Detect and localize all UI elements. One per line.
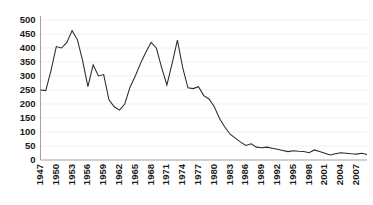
y-tick-labels-group: 050100150200250300350400450500 [20, 14, 36, 165]
x-tick-label: 1962 [113, 164, 124, 185]
y-tick-label: 0 [30, 154, 35, 165]
x-tick-label: 1986 [239, 164, 250, 185]
chart-canvas: 050100150200250300350400450500 194719501… [0, 0, 373, 205]
x-tick-label: 1977 [192, 164, 203, 185]
y-tick-label: 250 [20, 84, 36, 95]
x-tick-label: 1998 [303, 164, 314, 185]
gridlines-group [41, 20, 368, 146]
x-tick-label: 2004 [334, 163, 345, 185]
x-tick-label: 1953 [66, 164, 77, 185]
x-tick-label: 2001 [318, 163, 329, 185]
x-tick-label: 1989 [255, 164, 266, 185]
y-tick-label: 300 [20, 70, 36, 81]
x-tick-label: 1956 [81, 164, 92, 185]
line-chart: 050100150200250300350400450500 194719501… [0, 0, 373, 205]
x-tick-label: 1980 [208, 164, 219, 185]
y-tick-label: 200 [20, 98, 36, 109]
x-tick-label: 2007 [350, 164, 361, 185]
x-tick-label: 1995 [287, 163, 298, 185]
x-tick-label: 1971 [160, 163, 171, 185]
y-tick-label: 500 [20, 14, 36, 25]
y-tick-label: 100 [20, 126, 36, 137]
x-tick-label: 1965 [129, 163, 140, 185]
y-tick-label: 400 [20, 42, 36, 53]
y-tick-label: 450 [20, 28, 36, 39]
y-tick-label: 150 [20, 112, 36, 123]
x-tick-label: 1950 [50, 164, 61, 185]
x-tick-labels-group: 1947195019531956195919621965196819711974… [34, 163, 361, 185]
x-tick-label: 1992 [271, 164, 282, 185]
series-group [41, 31, 368, 155]
x-tick-label: 1947 [34, 164, 45, 185]
x-tick-label: 1968 [145, 164, 156, 185]
y-tick-label: 350 [20, 56, 36, 67]
data-series-line [41, 31, 368, 155]
x-tick-label: 1974 [176, 163, 187, 185]
axes-group [41, 16, 368, 160]
y-tick-label: 50 [25, 140, 36, 151]
x-tick-label: 1959 [97, 164, 108, 185]
x-tick-label: 1983 [224, 164, 235, 185]
